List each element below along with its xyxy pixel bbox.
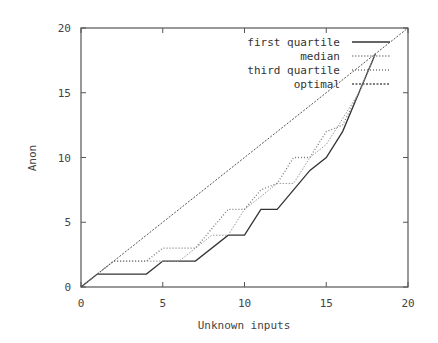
legend-label: first quartile	[247, 36, 340, 49]
x-tick-label: 20	[401, 297, 414, 310]
y-tick-label: 0	[64, 281, 71, 294]
x-tick-label: 10	[238, 297, 251, 310]
x-tick-label: 0	[78, 297, 85, 310]
y-tick-label: 20	[58, 22, 71, 35]
x-axis-label: Unknown inputs	[198, 319, 291, 332]
y-tick-label: 15	[58, 87, 71, 100]
y-axis-label: Anon	[26, 145, 39, 172]
x-tick-label: 15	[320, 297, 333, 310]
series-optimal	[81, 28, 408, 287]
legend: first quartilemedianthird quartileoptima…	[247, 36, 390, 91]
legend-label: optimal	[294, 78, 340, 91]
legend-label: median	[300, 50, 340, 63]
line-chart: 0510152005101520 first quartilemedianthi…	[0, 0, 438, 343]
y-tick-label: 5	[64, 216, 71, 229]
legend-label: third quartile	[247, 64, 340, 77]
x-tick-label: 5	[159, 297, 166, 310]
y-tick-label: 10	[58, 152, 71, 165]
data-series	[81, 28, 408, 287]
